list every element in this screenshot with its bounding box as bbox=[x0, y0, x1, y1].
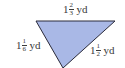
denominator: 2 bbox=[97, 51, 101, 58]
whole-number: 1 bbox=[90, 45, 96, 56]
side-label-right: 1 1 2 yd bbox=[90, 43, 115, 58]
whole-number: 1 bbox=[63, 4, 69, 15]
unit: yd bbox=[30, 40, 41, 51]
side-label-left: 1 1 6 yd bbox=[16, 38, 41, 53]
side-label-top: 1 2 3 yd bbox=[63, 2, 88, 17]
fraction: 1 2 bbox=[96, 43, 101, 58]
whole-number: 1 bbox=[16, 40, 22, 51]
fraction: 1 6 bbox=[22, 38, 27, 53]
unit: yd bbox=[104, 45, 115, 56]
denominator: 6 bbox=[23, 46, 27, 53]
fraction: 2 3 bbox=[69, 2, 74, 17]
unit: yd bbox=[77, 4, 88, 15]
triangle-figure: 1 2 3 yd 1 1 6 yd 1 1 2 yd bbox=[0, 0, 125, 68]
denominator: 3 bbox=[70, 10, 74, 17]
